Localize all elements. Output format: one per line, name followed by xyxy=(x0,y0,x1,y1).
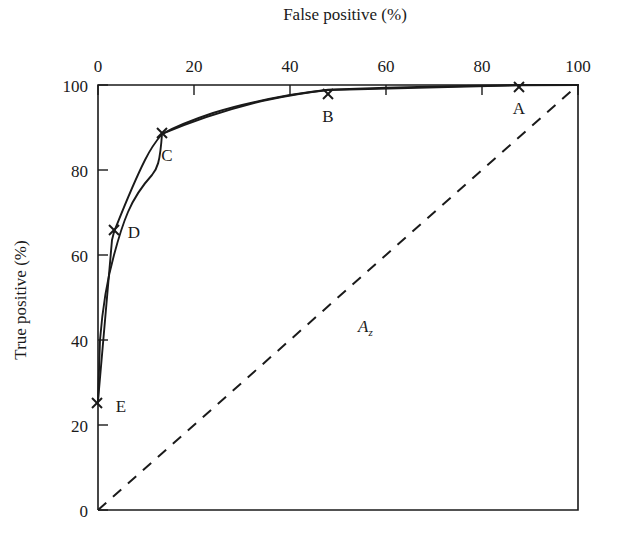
y-tick-label-40: 40 xyxy=(71,332,88,351)
y-axis-title: True positive (%) xyxy=(11,240,30,359)
az-annotation-subscript: z xyxy=(367,326,373,338)
roc-curve-steep-segment xyxy=(98,232,114,401)
data-point-label-d: D xyxy=(128,223,140,242)
data-point-label-c: C xyxy=(161,146,172,165)
data-point-markers: A B C D E xyxy=(92,82,526,416)
y-tick-label-0: 0 xyxy=(80,502,89,521)
x-tick-label-0: 0 xyxy=(94,57,103,76)
data-point-label-b: B xyxy=(322,107,333,126)
az-annotation: Az xyxy=(357,317,373,338)
roc-chart-figure: 0 20 40 60 80 100 100 80 60 40 20 0 Fals… xyxy=(0,0,625,536)
roc-plot-svg: 0 20 40 60 80 100 100 80 60 40 20 0 Fals… xyxy=(0,0,625,536)
x-tick-label-100: 100 xyxy=(565,57,591,76)
y-tick-label-20: 20 xyxy=(71,417,88,436)
x-axis-title: False positive (%) xyxy=(283,5,407,24)
roc-curve-path xyxy=(98,85,578,401)
az-annotation-letter: A xyxy=(357,317,369,336)
data-point-b[interactable]: B xyxy=(322,89,333,126)
data-point-label-e: E xyxy=(116,397,126,416)
x-tick-label-20: 20 xyxy=(186,57,203,76)
roc-curve-cb-segment xyxy=(162,90,328,134)
x-tick-label-80: 80 xyxy=(474,57,491,76)
x-tick-labels: 0 20 40 60 80 100 xyxy=(94,57,591,76)
x-tick-label-40: 40 xyxy=(282,57,299,76)
x-tick-label-60: 60 xyxy=(378,57,395,76)
y-tick-label-100: 100 xyxy=(63,77,89,96)
data-point-label-a: A xyxy=(513,99,526,118)
y-tick-label-60: 60 xyxy=(71,247,88,266)
y-tick-labels: 100 80 60 40 20 0 xyxy=(63,77,89,521)
y-tick-label-80: 80 xyxy=(71,162,88,181)
roc-curve-dc-segment xyxy=(114,134,162,232)
data-point-a[interactable]: A xyxy=(513,82,526,118)
